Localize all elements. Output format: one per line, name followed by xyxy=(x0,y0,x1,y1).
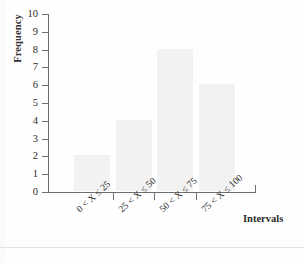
x-tick-1 xyxy=(113,193,114,200)
y-tick-8 xyxy=(42,50,48,51)
scan-artifact-left-edge xyxy=(0,0,6,263)
y-tick-label-6: 6 xyxy=(18,80,38,91)
y-tick-9 xyxy=(42,32,48,33)
y-tick-6 xyxy=(42,85,48,86)
bar xyxy=(157,49,193,191)
y-tick-label-1: 1 xyxy=(18,169,38,180)
y-tick-label-8: 8 xyxy=(18,45,38,56)
y-tick-label-9: 9 xyxy=(18,27,38,38)
bar xyxy=(199,84,235,191)
y-tick-label-10: 10 xyxy=(18,9,38,20)
y-tick-label-5: 5 xyxy=(18,98,38,109)
y-tick-4 xyxy=(42,121,48,122)
y-tick-7 xyxy=(42,67,48,68)
y-tick-1 xyxy=(42,174,48,175)
y-tick-5 xyxy=(42,103,48,104)
y-axis-line xyxy=(48,14,49,193)
y-tick-label-4: 4 xyxy=(18,116,38,127)
x-axis-end-tick xyxy=(255,185,256,193)
scan-artifact-bottom-line xyxy=(0,247,304,248)
x-axis-title: Intervals xyxy=(243,213,283,224)
y-tick-label-7: 7 xyxy=(18,62,38,73)
x-tick-2 xyxy=(154,193,155,200)
y-tick-2 xyxy=(42,156,48,157)
y-tick-10 xyxy=(42,14,48,15)
chart-figure: Frequency 012345678910 0 < X ≤ 2525 < X … xyxy=(0,0,304,263)
plot-area: 012345678910 xyxy=(48,14,256,192)
x-tick-3 xyxy=(196,193,197,200)
y-tick-0 xyxy=(42,192,48,193)
y-tick-3 xyxy=(42,139,48,140)
y-tick-label-2: 2 xyxy=(18,151,38,162)
y-tick-label-0: 0 xyxy=(18,187,38,198)
y-tick-label-3: 3 xyxy=(18,134,38,145)
